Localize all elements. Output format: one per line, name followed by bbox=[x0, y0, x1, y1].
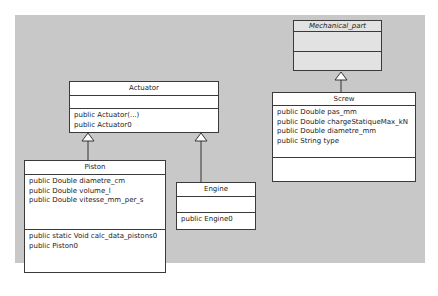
class-name: Actuator bbox=[70, 82, 218, 96]
class-actuator[interactable]: Actuator public Actuator(...) public Act… bbox=[69, 81, 219, 133]
methods-section: public Engine0 bbox=[177, 213, 255, 229]
methods-section bbox=[273, 158, 415, 181]
attribute: public Double diametre_mm bbox=[277, 127, 411, 137]
method: public Actuator(...) bbox=[74, 111, 214, 121]
methods-section: public static Void calc_data_pistons0 pu… bbox=[25, 230, 165, 272]
attribute: public Double chargeStatiqueMax_kN bbox=[277, 118, 411, 128]
attribute: public Double vitesse_mm_per_s bbox=[29, 196, 161, 206]
method: public Piston0 bbox=[29, 242, 161, 252]
class-name: Engine bbox=[177, 183, 255, 197]
attributes-section bbox=[70, 96, 218, 109]
attributes-section bbox=[177, 197, 255, 213]
attribute: public Double pas_mm bbox=[277, 108, 411, 118]
attribute: public Double volume_l bbox=[29, 187, 161, 197]
class-piston[interactable]: Piston public Double diametre_cm public … bbox=[24, 160, 166, 273]
class-name: Mechanical_part bbox=[294, 21, 381, 32]
class-name: Piston bbox=[25, 161, 165, 175]
class-name: Screw bbox=[273, 93, 415, 106]
method: public Engine0 bbox=[181, 215, 251, 225]
methods-section bbox=[294, 52, 381, 70]
attributes-section: public Double diametre_cm public Double … bbox=[25, 175, 165, 230]
class-screw[interactable]: Screw public Double pas_mm public Double… bbox=[272, 92, 416, 182]
attributes-section: public Double pas_mm public Double charg… bbox=[273, 106, 415, 158]
attribute: public Double diametre_cm bbox=[29, 177, 161, 187]
class-engine[interactable]: Engine public Engine0 bbox=[176, 182, 256, 230]
class-mechanical-part[interactable]: Mechanical_part bbox=[293, 20, 382, 71]
methods-section: public Actuator(...) public Actuator0 bbox=[70, 109, 218, 132]
method: public static Void calc_data_pistons0 bbox=[29, 232, 161, 242]
attribute: public String type bbox=[277, 137, 411, 147]
method: public Actuator0 bbox=[74, 121, 214, 131]
attributes-section bbox=[294, 32, 381, 52]
